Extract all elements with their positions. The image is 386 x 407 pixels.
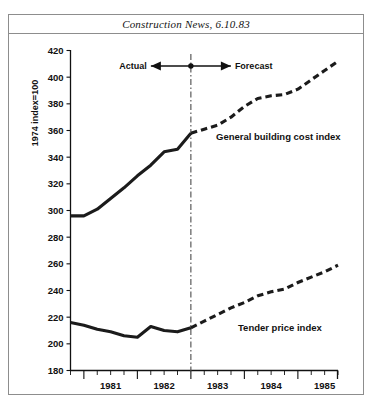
divider-center-dot-icon <box>188 63 193 68</box>
x-tick-label: 1981 <box>100 380 122 391</box>
figure-container: Construction News, 6.10.83 1974 index=10… <box>0 0 386 407</box>
y-tick-label: 280 <box>48 232 64 243</box>
forecast-arrow-head-icon <box>221 62 231 71</box>
y-tick-label: 200 <box>48 338 64 349</box>
y-axis-title-text: 1974 index=100 <box>30 80 40 146</box>
series-label-general-building-cost-index: General building cost index <box>216 131 341 142</box>
y-tick-label: 380 <box>48 98 64 109</box>
x-axis: 19811982198319841985 <box>71 371 339 391</box>
y-tick-label: 220 <box>48 312 64 323</box>
y-axis-tick-labels: 180200220240260280300320340360380400420 <box>48 45 64 376</box>
series-general-building-cost-index-forecast <box>191 61 338 133</box>
y-axis: 180200220240260280300320340360380400420 <box>48 45 71 376</box>
actual-arrow-head-icon <box>151 62 161 71</box>
x-tick-label: 1982 <box>154 380 175 391</box>
x-tick-label: 1984 <box>261 380 283 391</box>
actual-forecast-annotation: Actual Forecast <box>119 61 272 71</box>
y-tick-label: 180 <box>48 365 64 376</box>
y-tick-label: 420 <box>48 45 64 56</box>
series-tender-price-index-forecast <box>191 265 338 328</box>
actual-label: Actual <box>119 61 147 71</box>
y-tick-label: 360 <box>48 125 64 136</box>
series-label-tender-price-index: Tender price index <box>238 322 322 333</box>
y-tick-label: 300 <box>48 205 64 216</box>
y-tick-label: 260 <box>48 258 64 269</box>
y-tick-label: 340 <box>48 152 64 163</box>
y-tick-label: 320 <box>48 178 64 189</box>
chart-plot: 1974 index=100 1802002202402602803003203… <box>0 0 386 407</box>
forecast-label: Forecast <box>235 61 273 71</box>
series-tender-price-index-actual <box>71 323 191 338</box>
y-axis-title: 1974 index=100 <box>30 80 40 146</box>
y-tick-label: 240 <box>48 285 64 296</box>
x-tick-label: 1983 <box>207 380 228 391</box>
series-labels-group: General building cost index Tender price… <box>216 131 341 333</box>
series-general-building-cost-index-actual <box>71 133 191 216</box>
x-axis-tick-labels: 19811982198319841985 <box>100 380 336 391</box>
y-tick-label: 400 <box>48 72 64 83</box>
x-tick-label: 1985 <box>314 380 336 391</box>
data-series-group <box>71 61 339 337</box>
x-axis-ticks <box>71 371 339 380</box>
